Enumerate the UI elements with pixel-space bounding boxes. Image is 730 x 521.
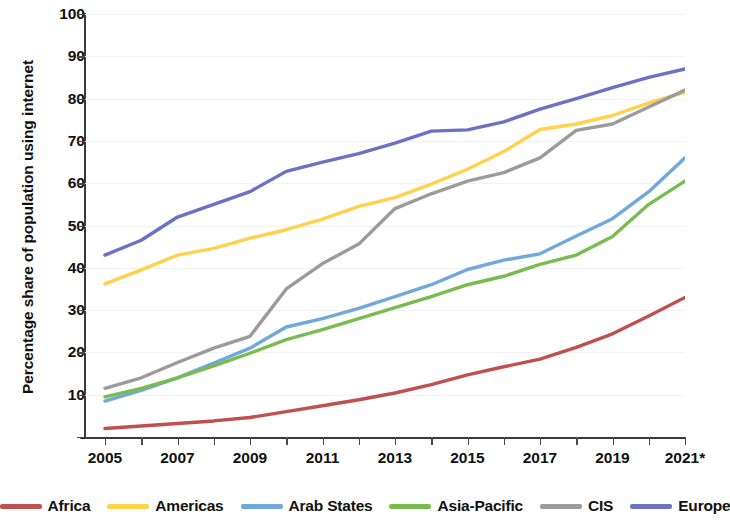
x-tick-mark (431, 437, 432, 445)
legend-swatch-icon (389, 504, 431, 509)
line-chart: Percentage share of population using int… (0, 0, 730, 521)
x-tick-mark (286, 437, 287, 445)
y-axis-ticks: 100908070605040302010- (0, 0, 85, 460)
legend-label: CIS (588, 497, 613, 515)
legend-label: Africa (48, 497, 91, 515)
legend-label: Asia-Pacific (437, 497, 522, 515)
chart-legend: AfricaAmericasArab StatesAsia-PacificCIS… (0, 491, 730, 521)
x-tick-mark (685, 437, 686, 445)
x-tick-label: 2009 (215, 450, 285, 466)
legend-item-americas[interactable]: Americas (107, 497, 223, 515)
x-tick-mark (178, 437, 179, 445)
legend-item-europe[interactable]: Europe (630, 497, 730, 515)
x-tick-label: 2005 (70, 450, 140, 466)
x-axis-line (84, 437, 686, 439)
x-tick-mark (395, 437, 396, 445)
legend-item-africa[interactable]: Africa (0, 497, 90, 515)
x-tick-mark (323, 437, 324, 445)
x-tick-mark (359, 437, 360, 445)
x-tick-label: 2011 (288, 450, 358, 466)
legend-swatch-icon (540, 504, 582, 509)
x-tick-mark (649, 437, 650, 445)
legend-label: Americas (155, 497, 223, 515)
x-tick-mark (141, 437, 142, 445)
legend-label: Europe (678, 497, 730, 515)
legend-item-arab-states[interactable]: Arab States (241, 497, 373, 515)
x-tick-mark (214, 437, 215, 445)
x-tick-mark (504, 437, 505, 445)
legend-swatch-icon (0, 504, 42, 509)
x-tick-label: 2017 (505, 450, 575, 466)
x-tick-mark (576, 437, 577, 445)
legend-label: Arab States (289, 497, 373, 515)
series-line-americas (105, 92, 685, 284)
x-tick-label: 2019 (578, 450, 648, 466)
legend-swatch-icon (241, 504, 283, 509)
legend-swatch-icon (630, 504, 672, 509)
x-tick-mark (468, 437, 469, 445)
x-tick-mark (613, 437, 614, 445)
series-line-cis (105, 90, 685, 388)
plot-area (85, 14, 685, 437)
legend-item-cis[interactable]: CIS (540, 497, 613, 515)
x-tick-mark (540, 437, 541, 445)
x-tick-label: 2007 (143, 450, 213, 466)
x-tick-label: 2015 (433, 450, 503, 466)
x-tick-mark (250, 437, 251, 445)
x-axis-ticks: 200520072009201120132015201720192021* (0, 0, 730, 60)
x-tick-label: 2013 (360, 450, 430, 466)
legend-swatch-icon (107, 504, 149, 509)
legend-item-asia-pacific[interactable]: Asia-Pacific (389, 497, 522, 515)
series-line-arab-states (105, 158, 685, 401)
series-line-africa (105, 297, 685, 428)
series-lines (85, 14, 685, 437)
x-tick-mark (105, 437, 106, 445)
x-tick-label: 2021* (650, 450, 720, 466)
